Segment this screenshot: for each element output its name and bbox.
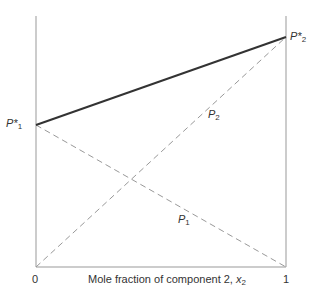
label-p1: P1 [178, 213, 190, 227]
label-p2: P2 [208, 108, 220, 122]
x-axis-label: Mole fraction of component 2, x2 [88, 273, 246, 287]
p1-partial-pressure-line [36, 125, 286, 267]
diagram-canvas [0, 0, 320, 293]
total-pressure-line [36, 37, 286, 125]
label-p-star-2: P*2 [290, 30, 306, 44]
x-tick-0: 0 [32, 273, 38, 285]
label-p-star-1: P*1 [6, 117, 22, 131]
p2-partial-pressure-line [36, 37, 286, 267]
x-tick-1: 1 [283, 273, 289, 285]
